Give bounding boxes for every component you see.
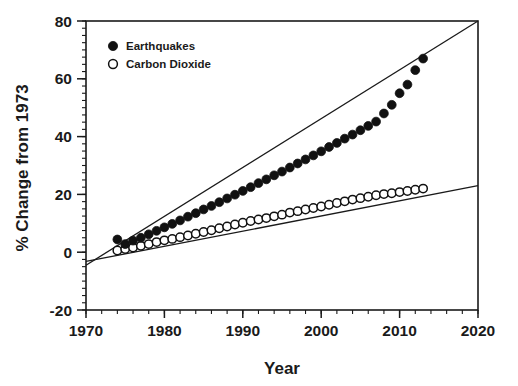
data-point — [340, 134, 349, 143]
data-point — [317, 202, 325, 210]
data-point — [325, 201, 333, 209]
data-point — [285, 163, 294, 172]
data-point — [239, 219, 247, 227]
y-tick-label-40: 40 — [55, 128, 72, 145]
data-point — [207, 226, 215, 234]
data-point — [293, 159, 302, 168]
data-point — [238, 187, 247, 196]
data-point — [348, 130, 357, 139]
data-point — [246, 183, 255, 192]
y-tick-label-80: 80 — [55, 13, 72, 30]
y-tick-label-0: 0 — [63, 244, 72, 261]
x-tick-label-1980: 1980 — [147, 322, 181, 339]
y-axis-title: % Change from 1973 — [13, 84, 32, 251]
data-point — [301, 155, 310, 164]
legend-label-carbon-dioxide: Carbon Dioxide — [126, 58, 211, 70]
data-point — [395, 89, 404, 98]
data-point — [184, 231, 192, 239]
data-point — [364, 193, 372, 201]
data-point — [270, 171, 279, 180]
data-point — [356, 194, 364, 202]
x-tick-label-2010: 2010 — [382, 322, 416, 339]
data-point — [293, 207, 301, 215]
y-tick-label-60: 60 — [55, 70, 72, 87]
data-point — [333, 199, 341, 207]
data-point — [325, 143, 334, 152]
x-tick-label-1970: 1970 — [69, 322, 103, 339]
data-point — [207, 202, 216, 211]
data-point — [145, 240, 153, 248]
data-point — [395, 188, 403, 196]
data-point — [278, 210, 286, 218]
data-point — [199, 228, 207, 236]
legend-marker-carbon-dioxide — [109, 60, 118, 69]
data-point — [380, 190, 388, 198]
data-point — [254, 179, 263, 188]
data-point — [278, 167, 287, 176]
data-point — [215, 198, 224, 207]
x-tick-label-1990: 1990 — [226, 322, 260, 339]
data-point — [388, 189, 396, 197]
data-point — [192, 230, 200, 238]
data-point — [160, 236, 168, 244]
x-axis-title: Year — [264, 359, 300, 378]
data-point — [286, 208, 294, 216]
data-point — [411, 186, 419, 194]
data-point — [332, 139, 341, 148]
x-tick-label-2020: 2020 — [461, 322, 495, 339]
data-point — [419, 54, 428, 63]
data-point — [176, 216, 185, 225]
data-point — [348, 195, 356, 203]
data-point — [380, 109, 389, 118]
chart-figure: Earthquakes Carbon Dioxide 1970198019902… — [0, 0, 518, 386]
data-point — [309, 151, 318, 160]
data-point — [387, 100, 396, 109]
data-point — [372, 191, 380, 199]
data-point — [270, 212, 278, 220]
data-point — [262, 214, 270, 222]
data-point — [317, 147, 326, 156]
data-point — [176, 233, 184, 241]
data-point — [372, 117, 381, 126]
data-point — [403, 187, 411, 195]
data-point — [168, 235, 176, 243]
data-point — [419, 184, 427, 192]
legend-label-earthquakes: Earthquakes — [126, 40, 195, 52]
data-point — [231, 190, 240, 199]
data-point — [223, 194, 232, 203]
data-point — [301, 205, 309, 213]
data-point — [356, 126, 365, 135]
data-point — [262, 175, 271, 184]
data-point — [341, 197, 349, 205]
data-point — [309, 204, 317, 212]
data-point — [364, 122, 373, 131]
legend-marker-earthquakes — [108, 41, 117, 50]
data-point — [215, 224, 223, 232]
data-point — [191, 209, 200, 218]
y-tick-label--20: -20 — [50, 302, 72, 319]
data-point — [246, 217, 254, 225]
data-point — [137, 242, 145, 250]
data-point — [223, 222, 231, 230]
data-point — [113, 246, 121, 254]
data-point — [231, 220, 239, 228]
data-point — [152, 238, 160, 246]
data-point — [403, 80, 412, 89]
y-tick-label-20: 20 — [55, 186, 72, 203]
data-point — [113, 235, 122, 244]
data-point — [411, 66, 420, 75]
scatter-chart: Earthquakes Carbon Dioxide 1970198019902… — [0, 0, 518, 386]
x-tick-label-2000: 2000 — [304, 322, 338, 339]
data-point — [254, 215, 262, 223]
